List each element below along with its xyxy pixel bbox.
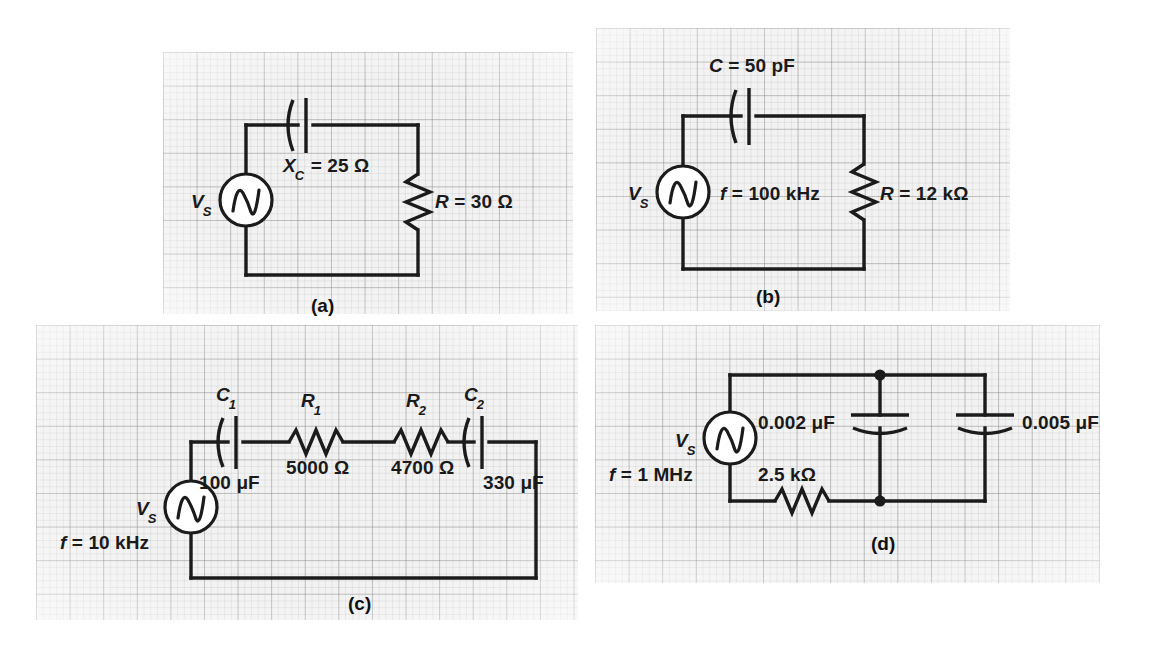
circuit-panel-b: VS C = 50 pF f = 100 kHz R = 12 kΩ (b) <box>596 28 1010 311</box>
circuit-panel-c: VS C1 R1 R2 C2 100 μF 5000 Ω 4700 Ω 330 … <box>36 325 578 620</box>
capacitance-label-b: C = 50 pF <box>709 56 795 75</box>
cap1-value-label-c: 100 μF <box>199 473 260 492</box>
panel-caption-c: (c) <box>348 593 371 615</box>
frequency-label-c: f = 10 kHz <box>60 533 149 552</box>
frequency-label-b: f = 100 kHz <box>720 184 820 203</box>
panel-caption-d: (d) <box>871 533 895 555</box>
source-label-c: VS <box>136 499 158 522</box>
circuit-schematic-d <box>595 325 1100 583</box>
resistor2-symbol-c <box>394 430 448 454</box>
circuit-panel-a: VS XC = 25 Ω R = 30 Ω (a) <box>163 52 573 314</box>
junction-node-top-d <box>874 369 885 380</box>
junction-node-bottom-d <box>874 495 885 506</box>
panel-caption-b: (b) <box>756 286 780 308</box>
cap2-value-label-d: 0.005 μF <box>1022 413 1099 432</box>
reactance-label-a: XC = 25 Ω <box>283 156 369 179</box>
frequency-label-d: f = 1 MHz <box>609 465 693 484</box>
res1-value-label-c: 5000 Ω <box>286 458 349 477</box>
resistor-symbol-a <box>406 174 430 230</box>
source-label-b: VS <box>628 184 650 207</box>
resistance-label-a: R = 30 Ω <box>435 192 513 211</box>
cap1-ref-label-c: C1 <box>216 385 237 408</box>
cap2-value-label-c: 330 μF <box>483 473 544 492</box>
res2-ref-label-c: R2 <box>406 391 427 414</box>
resistor1-symbol-c <box>289 430 343 454</box>
res-value-label-d: 2.5 kΩ <box>758 465 816 484</box>
circuit-schematic-b <box>596 28 1010 311</box>
resistor-symbol-d <box>775 489 829 513</box>
resistance-label-b: R = 12 kΩ <box>880 184 969 203</box>
source-label-d: VS <box>675 431 697 454</box>
res1-ref-label-c: R1 <box>301 391 322 414</box>
cap1-value-label-d: 0.002 μF <box>758 413 835 432</box>
cap2-ref-label-c: C2 <box>464 385 485 408</box>
source-label-a: VS <box>191 192 213 215</box>
res2-value-label-c: 4700 Ω <box>391 458 454 477</box>
panel-caption-a: (a) <box>311 295 334 317</box>
resistor-symbol-b <box>852 164 876 220</box>
circuit-panel-d: VS f = 1 MHz 0.002 μF 0.005 μF 2.5 kΩ (d… <box>595 325 1100 583</box>
circuit-schematic-a <box>163 52 573 314</box>
